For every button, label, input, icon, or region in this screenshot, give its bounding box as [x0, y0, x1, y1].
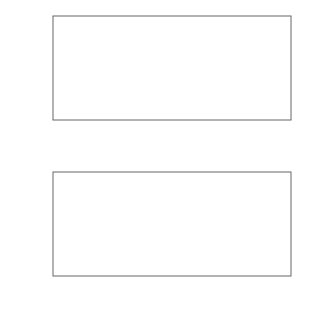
- bottom-plot-frame: [53, 172, 291, 276]
- figure: [0, 0, 314, 324]
- bottom-plot: [53, 172, 291, 276]
- top-plot-frame: [53, 16, 291, 120]
- top-plot: [53, 16, 291, 120]
